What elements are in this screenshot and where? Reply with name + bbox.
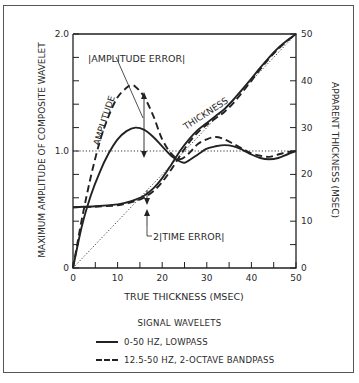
legend-title: SIGNAL WAVELETS (0, 317, 359, 328)
axes: 0102030405001.02.001020304050 (55, 29, 313, 283)
amplitude-error-leader (116, 57, 143, 118)
amplitude-error-label: |AMPLITUDE ERROR| (88, 53, 185, 64)
y-right-tick-label: 10 (301, 216, 313, 226)
arrowhead-down-icon (144, 198, 150, 205)
y-axis-right-title: APPARENT THICKNESS (MSEC) (330, 82, 340, 218)
x-tick-label: 0 (70, 273, 76, 283)
solid-line-swatch-icon (96, 341, 118, 343)
legend-label: 0-50 HZ, LOWPASS (124, 336, 208, 347)
y-right-tick-label: 30 (301, 123, 313, 133)
x-tick-label: 50 (290, 273, 302, 283)
dashed-line-swatch-icon (96, 359, 118, 361)
legend-label: 12.5-50 HZ, 2-OCTAVE BANDPASS (124, 354, 274, 365)
y-right-tick-label: 0 (301, 263, 307, 273)
x-tick-label: 40 (246, 273, 258, 283)
x-tick-label: 20 (156, 273, 168, 283)
y-left-tick-label: 1.0 (55, 146, 70, 156)
legend-item-bandpass: 12.5-50 HZ, 2-OCTAVE BANDPASS (96, 354, 274, 365)
y-right-tick-label: 40 (301, 76, 313, 86)
arrowhead-up-icon (144, 209, 150, 216)
x-tick-label: 10 (112, 273, 124, 283)
y-axis-left-title: MAXIMUM AMPLITUDE OF COMPOSITE WAVELET (37, 42, 47, 258)
y-left-tick-label: 0 (63, 263, 69, 273)
amplitude-label: AMPLITUDE (91, 94, 117, 147)
y-right-tick-label: 20 (301, 169, 313, 179)
time-error-label: 2|TIME ERROR| (153, 231, 225, 242)
y-left-tick-label: 2.0 (55, 29, 70, 39)
x-tick-label: 30 (201, 273, 213, 283)
x-axis-title: TRUE THICKNESS (MSEC) (123, 291, 243, 302)
legend-item-lowpass: 0-50 HZ, LOWPASS (96, 336, 208, 347)
y-right-tick-label: 50 (301, 29, 313, 39)
arrowhead-down-icon (141, 151, 147, 158)
